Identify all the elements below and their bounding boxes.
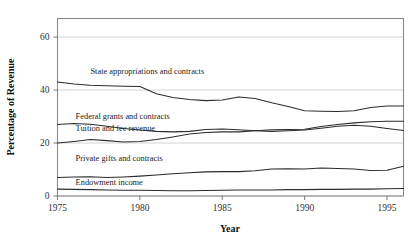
y-tick-label-20: 20 [40, 138, 50, 148]
y-tick-label-40: 40 [40, 85, 50, 95]
series-line-3 [58, 166, 404, 177]
series-line-4 [58, 189, 404, 191]
revenue-sources-line-chart: 19751980198519901995 0204060 State appro… [0, 0, 419, 242]
series-labels-group: State appropriations and contractsFedera… [76, 67, 205, 188]
series-label-0: State appropriations and contracts [90, 67, 204, 76]
x-tick-label-1990: 1990 [295, 203, 314, 213]
y-tick-labels-group: 0204060 [40, 32, 50, 201]
series-label-2: Tuition and fee revenue [76, 124, 156, 133]
chart-figure: 19751980198519901995 0204060 State appro… [0, 0, 419, 242]
y-axis-title: Percentage of Revenue [5, 58, 16, 156]
y-tick-label-0: 0 [45, 191, 50, 201]
series-label-4: Endowment income [76, 178, 143, 187]
x-tick-labels-group: 19751980198519901995 [48, 203, 397, 213]
data-lines-group [58, 82, 404, 191]
y-tickmarks-group [54, 37, 58, 196]
series-line-0 [58, 82, 404, 111]
series-label-1: Federal grants and contracts [76, 112, 170, 121]
x-tickmarks-group [58, 196, 388, 200]
x-tick-label-1980: 1980 [130, 203, 149, 213]
x-tick-label-1995: 1995 [378, 203, 397, 213]
series-label-3: Private gifts and contracts [76, 154, 163, 163]
x-axis-title: Year [220, 223, 241, 234]
x-tick-label-1985: 1985 [213, 203, 232, 213]
x-tick-label-1975: 1975 [48, 203, 67, 213]
y-tick-label-60: 60 [40, 32, 50, 42]
